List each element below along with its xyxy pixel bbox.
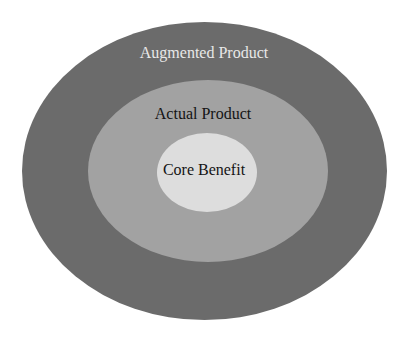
augmented-product-label: Augmented Product <box>140 44 269 62</box>
product-levels-diagram: Augmented Product Actual Product Core Be… <box>0 0 408 341</box>
actual-product-label: Actual Product <box>155 105 252 122</box>
core-benefit-label: Core Benefit <box>163 161 246 178</box>
